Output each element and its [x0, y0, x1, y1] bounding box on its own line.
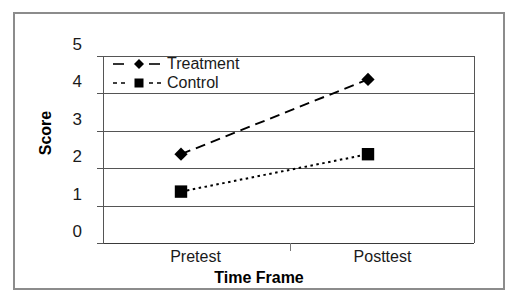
y-tick-mark-5: [97, 56, 104, 57]
y-tick-label-4: 4: [58, 73, 82, 90]
x-axis-title: Time Frame: [15, 269, 503, 287]
gridline-2: [104, 168, 474, 169]
diamond-marker-icon: [111, 57, 167, 71]
legend-label-control: Control: [167, 75, 219, 91]
y-tick-label-0: 0: [58, 223, 82, 240]
y-tick-mark-0: [97, 243, 104, 244]
x-axis-line: [104, 243, 474, 244]
legend-entry-treatment: Treatment: [111, 54, 261, 73]
x-tick-mark-middle: [290, 243, 291, 251]
chart-screenshot: Score 5 4 3 2 1 0 Pretest Posttest: [0, 0, 523, 303]
gridline-4: [104, 93, 474, 94]
y-tick-mark-3: [97, 131, 104, 132]
y-tick-label-2: 2: [58, 148, 82, 165]
legend-label-treatment: Treatment: [167, 56, 239, 72]
figure-frame: Score 5 4 3 2 1 0 Pretest Posttest: [13, 12, 505, 290]
legend-entry-control: Control: [111, 73, 261, 92]
y-axis-title: Score: [37, 93, 55, 173]
y-tick-label-1: 1: [58, 186, 82, 203]
square-marker-icon: [111, 76, 167, 90]
y-tick-label-3: 3: [58, 111, 82, 128]
y-tick-mark-2: [97, 168, 104, 169]
gridline-3: [104, 131, 474, 132]
chart-legend: Treatment Control: [111, 54, 261, 92]
y-tick-label-5: 5: [58, 36, 82, 53]
gridline-1: [104, 206, 474, 207]
x-tick-label-pretest: Pretest: [149, 248, 242, 266]
y-tick-mark-1: [97, 206, 104, 207]
y-tick-mark-4: [97, 93, 104, 94]
x-tick-label-posttest: Posttest: [336, 248, 429, 266]
